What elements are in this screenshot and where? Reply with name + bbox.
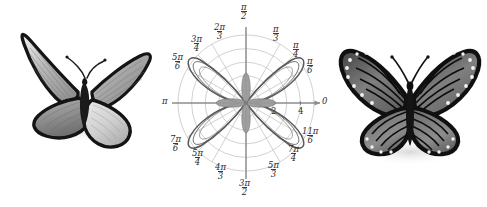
angle-label-pi-over-6: π6 <box>307 56 313 74</box>
angle-label-3pi-over-4: 3π4 <box>191 34 202 52</box>
figure-row: π2 2π3 3π4 5π6 π 7π6 5π4 4π3 3π2 5π3 7π4 <box>0 0 487 207</box>
angle-label-pi-over-4: π4 <box>293 40 299 58</box>
axis-arrow-right <box>315 101 321 106</box>
angle-label-2pi-over-3: 2π3 <box>214 22 225 40</box>
polar-origin <box>244 101 248 105</box>
angle-label-3pi-over-2: 3π2 <box>239 178 250 196</box>
angle-label-7pi-over-6: 7π6 <box>170 134 181 152</box>
angle-label-zero: 0 <box>322 96 327 106</box>
angle-label-7pi-over-4: 7π4 <box>288 144 299 162</box>
polar-plot-panel: π2 2π3 3π4 5π6 π 7π6 5π4 4π3 3π2 5π3 7π4 <box>162 0 330 207</box>
radial-tick-label-2: 2 <box>271 106 276 116</box>
angle-label-pi-over-2: π2 <box>241 2 247 20</box>
left-butterfly-panel <box>0 0 162 207</box>
angle-label-5pi-over-6: 5π6 <box>172 52 183 70</box>
angle-label-5pi-over-3: 5π3 <box>268 160 279 178</box>
radial-tick-label-4: 4 <box>298 106 303 116</box>
angle-label-5pi-over-4: 5π4 <box>192 148 203 166</box>
right-butterfly-panel <box>330 0 487 207</box>
angle-label-pi-over-3: π3 <box>273 24 279 42</box>
right-butterfly-image <box>330 0 487 207</box>
angle-label-4pi-over-3: 4π3 <box>215 162 226 180</box>
left-butterfly-image <box>0 0 162 207</box>
angle-label-pi: π <box>162 96 168 106</box>
angle-label-11pi-over-6: 11π6 <box>302 126 318 144</box>
polar-chart <box>162 0 330 207</box>
